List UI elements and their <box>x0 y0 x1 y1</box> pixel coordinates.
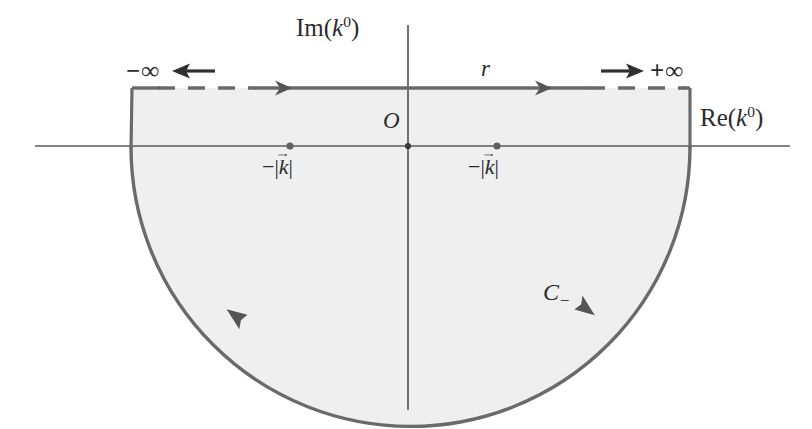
diagram-canvas <box>0 0 812 429</box>
origin-label: O <box>383 109 400 132</box>
path-label-r: r <box>481 57 490 80</box>
pole-right-label: −| k | <box>468 156 499 178</box>
pole-left-dot <box>286 142 293 149</box>
positive-infinity-label: +∞ <box>650 58 684 83</box>
neg-infinity-arrow-icon <box>172 64 215 79</box>
contour-diagram-figure: Im(k0) Re(k0) O −∞ +∞ r −| k | −| k | <box>0 0 812 429</box>
real-axis-label: Re(k0) <box>700 104 763 130</box>
contour-left-edge <box>131 88 132 149</box>
real-axis-label-text: Re <box>700 104 728 131</box>
real-axis-argument: k <box>736 104 747 131</box>
pole-left-label: −| k | <box>262 156 293 178</box>
pos-infinity-arrow-icon <box>601 64 644 79</box>
imaginary-axis-argument: k <box>332 14 343 41</box>
pole-right-sign: − <box>468 154 480 179</box>
contour-shaded-region <box>132 88 690 425</box>
real-axis-superscript: 0 <box>747 103 755 120</box>
pole-right-vector: k <box>485 156 495 178</box>
pole-left-sign: − <box>262 154 274 179</box>
imaginary-axis-label-text: Im <box>296 14 324 41</box>
imaginary-axis-superscript: 0 <box>343 13 351 30</box>
imaginary-axis-label: Im(k0) <box>296 14 359 40</box>
negative-infinity-label: −∞ <box>126 58 160 83</box>
contour-label-subscript: − <box>559 291 570 310</box>
pole-right-symbol: k <box>485 154 495 179</box>
pole-left-symbol: k <box>279 154 289 179</box>
contour-label: C− <box>543 280 570 310</box>
origin-dot <box>405 143 411 149</box>
pole-right-dot <box>493 142 500 149</box>
pole-left-vector: k <box>279 156 289 178</box>
contour-label-letter: C <box>543 279 559 305</box>
